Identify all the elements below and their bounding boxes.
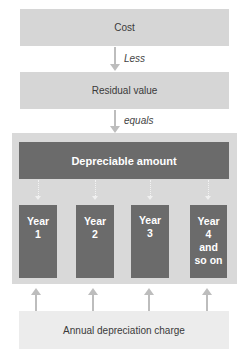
arrow-up-icon [35, 294, 37, 311]
dotted-arrow-head-icon [205, 196, 211, 200]
year-number: 2 [76, 228, 114, 241]
arrow-down-icon [114, 110, 116, 127]
depreciable-amount-label: Depreciable amount [71, 155, 176, 167]
arrow-up-icon [92, 294, 94, 311]
residual-value-label: Residual value [92, 85, 158, 96]
annual-depreciation-charge-label: Annual depreciation charge [63, 325, 185, 336]
year-label: Year [19, 215, 57, 228]
dotted-arrow-head-icon [92, 196, 98, 200]
cost-label: Cost [114, 22, 135, 33]
year-so-on: so on [190, 254, 227, 267]
dotted-arrow-head-icon [147, 196, 153, 200]
depreciable-amount-box: Depreciable amount [19, 142, 229, 179]
annual-depreciation-charge-box: Annual depreciation charge [19, 311, 229, 349]
year-box-1: Year 1 [19, 205, 57, 278]
arrow-head-down-icon [110, 64, 120, 71]
cost-box: Cost [20, 9, 229, 46]
residual-value-box: Residual value [20, 72, 229, 109]
year-number: 1 [19, 228, 57, 241]
arrow-up-icon [206, 294, 208, 311]
arrow-down-icon [114, 47, 116, 65]
year-label: Year [131, 214, 169, 227]
arrow-head-up-icon [31, 288, 41, 295]
arrow-head-up-icon [144, 288, 154, 295]
arrow-head-up-icon [202, 288, 212, 295]
year-number: 3 [131, 227, 169, 240]
less-label: Less [124, 53, 145, 64]
year-box-3: Year 3 [131, 205, 169, 278]
arrow-head-down-icon [110, 126, 120, 133]
dotted-arrow-head-icon [35, 196, 41, 200]
year-number: 4 [190, 228, 227, 241]
arrow-head-up-icon [88, 288, 98, 295]
arrow-up-icon [148, 294, 150, 311]
year-box-4: Year 4 and so on [190, 205, 227, 278]
year-label: Year [190, 215, 227, 228]
year-and: and [190, 241, 227, 254]
equals-label: equals [124, 115, 153, 126]
year-label: Year [76, 215, 114, 228]
year-box-2: Year 2 [76, 205, 114, 278]
